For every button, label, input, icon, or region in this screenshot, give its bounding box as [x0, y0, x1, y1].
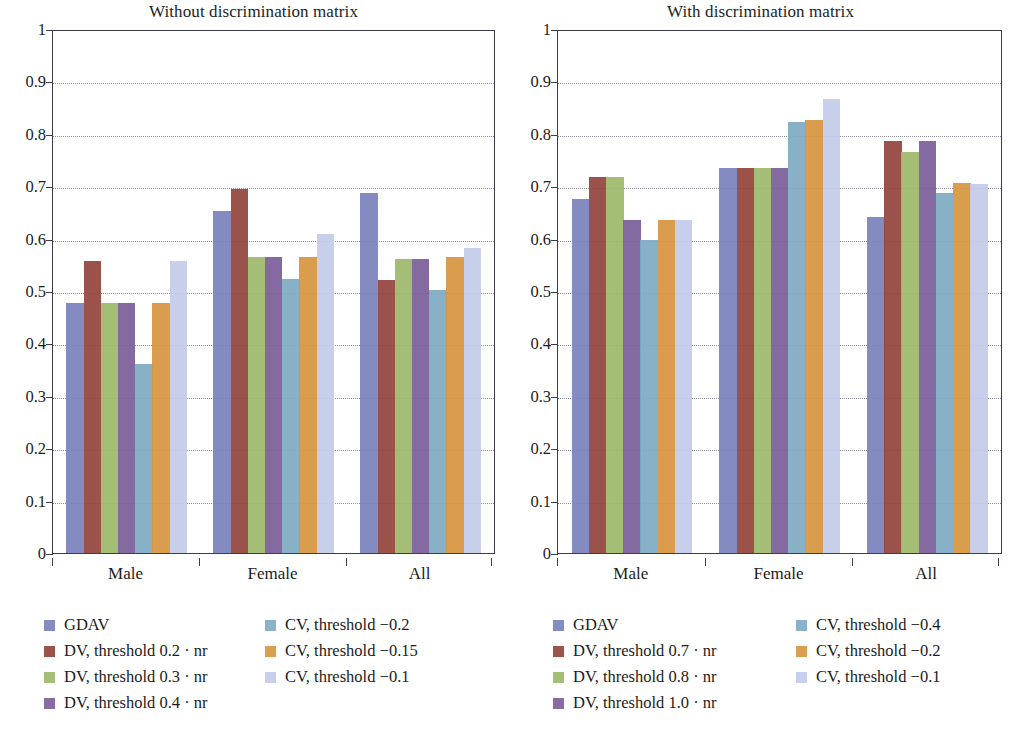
x-tick-label: Male	[108, 564, 143, 584]
chart-panel-without-discrimination-matrix: Without discrimination matrix 00.10.20.3…	[0, 0, 507, 731]
bar	[606, 177, 624, 553]
bar	[395, 259, 413, 553]
legend-label: GDAV	[573, 617, 619, 634]
bar-fill	[66, 303, 84, 553]
bar	[378, 280, 396, 553]
y-tick-label: 0.8	[507, 127, 551, 144]
bar	[623, 220, 641, 553]
bar	[771, 168, 789, 553]
legend-column-1-left: GDAVDV, threshold 0.2 · nrDV, threshold …	[44, 612, 208, 716]
legend-swatch-icon	[553, 672, 564, 683]
bar	[265, 257, 283, 553]
bar-fill	[771, 168, 789, 553]
bar	[675, 220, 693, 553]
legend-label: DV, threshold 1.0 · nr	[573, 695, 717, 712]
bar-fill	[867, 217, 885, 553]
bar	[737, 168, 755, 553]
y-tick-label: 0.7	[2, 179, 46, 196]
bar	[213, 211, 231, 553]
bar-fill	[658, 220, 676, 553]
chart-title-left: Without discrimination matrix	[0, 2, 507, 22]
bar-fill	[395, 259, 413, 553]
bar-fill	[412, 259, 430, 553]
bar-fill	[953, 183, 971, 553]
x-axis-right: MaleFemaleAll	[557, 558, 1002, 592]
legend-label: DV, threshold 0.8 · nr	[573, 669, 717, 686]
bar-fill	[589, 177, 607, 553]
gridline	[53, 241, 494, 242]
bar	[231, 189, 249, 553]
bar-fill	[606, 177, 624, 553]
bar	[118, 303, 136, 553]
y-tick-label: 0.7	[507, 179, 551, 196]
legend-label: GDAV	[64, 617, 110, 634]
y-tick-label: 0.9	[507, 74, 551, 91]
plot-area-left	[52, 30, 495, 554]
bar-fill	[317, 234, 335, 553]
bar	[823, 99, 841, 553]
bar-fill	[737, 168, 755, 553]
y-tick-label: 0.4	[507, 336, 551, 353]
bar	[901, 152, 919, 553]
legend-swatch-icon	[553, 698, 564, 709]
gridline	[558, 83, 1001, 84]
bar-fill	[884, 141, 902, 553]
x-tick-label: Male	[613, 564, 648, 584]
y-tick-mark	[551, 554, 558, 555]
legend-item: GDAV	[44, 612, 208, 638]
bar-fill	[118, 303, 136, 553]
gridline	[53, 188, 494, 189]
x-axis-tick	[557, 558, 558, 566]
y-tick-label: 0.1	[507, 493, 551, 510]
legend-label: CV, threshold −0.1	[816, 669, 941, 686]
bar-fill	[282, 279, 300, 553]
legend-label: CV, threshold −0.4	[816, 617, 941, 634]
legend-swatch-icon	[265, 672, 276, 683]
bar	[970, 184, 988, 553]
chart-title-right: With discrimination matrix	[507, 2, 1014, 22]
legend-label: CV, threshold −0.1	[285, 669, 410, 686]
bar-fill	[919, 141, 937, 553]
bar	[135, 364, 153, 553]
legend-swatch-icon	[796, 672, 807, 683]
chart-panel-with-discrimination-matrix: With discrimination matrix 00.10.20.30.4…	[507, 0, 1014, 731]
legend-column-1-right: GDAVDV, threshold 0.7 · nrDV, threshold …	[553, 612, 717, 716]
x-axis-tick	[346, 558, 347, 566]
legend-swatch-icon	[44, 698, 55, 709]
bar	[299, 257, 317, 553]
bar	[788, 122, 806, 553]
legend-label: CV, threshold −0.15	[285, 643, 418, 660]
legend-item: CV, threshold −0.2	[265, 612, 418, 638]
legend-item: GDAV	[553, 612, 717, 638]
x-axis-tick	[52, 558, 53, 566]
legend-label: CV, threshold −0.2	[816, 643, 941, 660]
x-axis-tick	[852, 558, 853, 566]
bar-fill	[623, 220, 641, 553]
bar-fill	[936, 193, 954, 554]
legend-label: CV, threshold −0.2	[285, 617, 410, 634]
x-axis-tick	[705, 558, 706, 566]
bar-fill	[970, 184, 988, 553]
legend-item: DV, threshold 0.3 · nr	[44, 664, 208, 690]
bar	[953, 183, 971, 553]
y-tick-label: 1	[507, 22, 551, 39]
x-axis-left: MaleFemaleAll	[52, 558, 495, 592]
bar-fill	[719, 168, 737, 553]
x-tick-label: Female	[753, 564, 803, 584]
bar-fill	[248, 257, 266, 553]
bar	[360, 193, 378, 554]
bar	[84, 261, 102, 553]
legend-item: DV, threshold 0.8 · nr	[553, 664, 717, 690]
bar	[282, 279, 300, 553]
bar	[152, 303, 170, 553]
legend-swatch-icon	[553, 620, 564, 631]
y-tick-label: 0.6	[2, 231, 46, 248]
legend-item: DV, threshold 0.2 · nr	[44, 638, 208, 664]
y-axis-right: 00.10.20.30.40.50.60.70.80.91	[507, 30, 551, 554]
bar-fill	[805, 120, 823, 553]
legend-right: GDAVDV, threshold 0.7 · nrDV, threshold …	[553, 612, 1014, 727]
legend-item: CV, threshold −0.1	[796, 664, 941, 690]
figure-bar-chart-pair: Without discrimination matrix 00.10.20.3…	[0, 0, 1014, 731]
x-axis-tick	[491, 558, 492, 566]
x-axis-tick	[998, 558, 999, 566]
